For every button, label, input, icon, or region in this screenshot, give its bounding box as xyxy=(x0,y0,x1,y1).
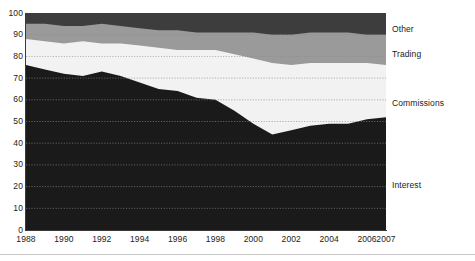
x-axis-tick-label: 1996 xyxy=(168,234,187,244)
bottom-divider xyxy=(0,254,475,255)
y-axis-tick-label: 60 xyxy=(0,95,23,104)
series-label-commissions: Commissions xyxy=(392,98,444,108)
x-axis-tick-label: 2002 xyxy=(282,234,301,244)
y-axis-tick-label: 30 xyxy=(0,160,23,169)
series-label-other: Other xyxy=(392,24,414,34)
series-label-interest: Interest xyxy=(392,180,421,190)
y-axis-tick-label: 90 xyxy=(0,30,23,39)
y-axis: 1009080706050403020100 xyxy=(0,13,23,230)
y-axis-tick-label: 100 xyxy=(0,9,23,18)
y-axis-tick-label: 80 xyxy=(0,52,23,61)
y-axis-tick-label: 70 xyxy=(0,74,23,83)
x-axis-tick-label: 1992 xyxy=(92,234,111,244)
plot-area xyxy=(26,13,386,230)
x-axis-line xyxy=(25,230,387,231)
y-axis-tick-label: 40 xyxy=(0,139,23,148)
y-axis-tick-label: 20 xyxy=(0,182,23,191)
plot-svg xyxy=(26,13,386,230)
stacked-area-chart: 1009080706050403020100 19881990199219941… xyxy=(0,0,475,261)
series-label-trading: Trading xyxy=(392,49,421,59)
x-axis-tick-label: 2000 xyxy=(244,234,263,244)
x-axis-tick-label: 1988 xyxy=(16,234,35,244)
x-axis-tick-label: 1994 xyxy=(130,234,149,244)
series-annotations: OtherTradingCommissionsInterest xyxy=(392,0,475,261)
y-axis-tick-label: 50 xyxy=(0,117,23,126)
x-axis-tick-label: 1990 xyxy=(54,234,73,244)
x-axis-tick-label: 2006 xyxy=(357,234,376,244)
x-axis-tick-label: 1998 xyxy=(206,234,225,244)
y-axis-tick-label: 10 xyxy=(0,204,23,213)
x-axis-tick-label: 2004 xyxy=(320,234,339,244)
